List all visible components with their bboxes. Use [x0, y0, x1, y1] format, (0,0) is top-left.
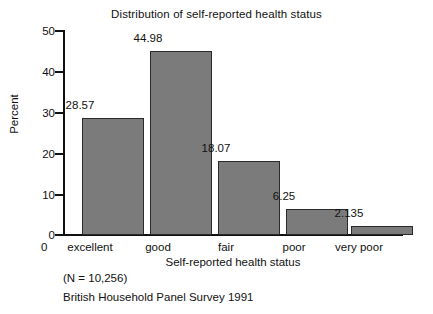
y-tick-label-50: 50	[31, 25, 55, 37]
bar-very-poor	[351, 226, 413, 235]
footnote-source: British Household Panel Survey 1991	[63, 291, 254, 303]
x-tick-label-good: good	[121, 241, 195, 253]
chart-container: Distribution of self-reported health sta…	[0, 0, 433, 314]
y-tick-mark-0	[55, 234, 63, 236]
bar-value-fair: 18.07	[186, 142, 246, 154]
y-axis-tick-labels: 50 40 30 20 10 0	[22, 0, 55, 314]
x-axis-label: Self-reported health status	[63, 256, 403, 268]
y-tick-mark-50	[55, 30, 63, 32]
x-axis-origin-label: 0	[41, 241, 47, 253]
bar-value-very-poor: 2.135	[319, 207, 379, 219]
y-tick-label-20: 20	[31, 148, 55, 160]
bar-excellent	[82, 118, 144, 235]
bar-value-excellent: 28.57	[50, 99, 110, 111]
y-tick-mark-20	[55, 153, 63, 155]
y-tick-label-0: 0	[31, 229, 55, 241]
x-tick-label-poor: poor	[257, 241, 331, 253]
y-tick-label-40: 40	[31, 66, 55, 78]
bar-value-good: 44.98	[118, 32, 178, 44]
plot-area	[63, 30, 403, 235]
y-axis-label: Percent	[8, 74, 20, 154]
x-tick-label-fair: fair	[189, 241, 263, 253]
y-tick-mark-40	[55, 71, 63, 73]
x-tick-label-excellent: excellent	[53, 241, 127, 253]
y-tick-label-10: 10	[31, 189, 55, 201]
y-tick-mark-10	[55, 194, 63, 196]
x-tick-label-very-poor: very poor	[322, 241, 396, 253]
bar-value-poor: 6.25	[254, 190, 314, 202]
footnote-sample-size: (N = 10,256)	[63, 272, 127, 284]
y-tick-mark-30	[55, 112, 63, 114]
chart-title: Distribution of self-reported health sta…	[0, 8, 433, 20]
